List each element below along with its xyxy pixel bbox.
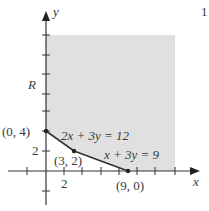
- line-label-x-3y-9: x + 3y = 9: [103, 147, 160, 162]
- x-axis-label: x: [192, 174, 199, 189]
- y-axis-arrow-icon: [42, 11, 50, 21]
- point-label-0-4: (0, 4): [2, 124, 30, 139]
- x-tick-label-2: 2: [61, 176, 68, 191]
- feasible-region-diagram: y x 1 R (0, 4) (3, 2) (9, 0) 2 2 2x + 3y…: [0, 0, 209, 211]
- vertex-0-4: [44, 129, 48, 133]
- page-mark: 1: [201, 4, 208, 19]
- point-label-9-0: (9, 0): [116, 178, 144, 193]
- y-axis-label: y: [51, 4, 59, 19]
- line-label-2x-3y-12: 2x + 3y = 12: [61, 128, 130, 143]
- point-label-3-2: (3, 2): [54, 153, 82, 168]
- y-tick-label-2: 2: [32, 143, 39, 158]
- region-label: R: [27, 77, 36, 92]
- vertex-9-0: [126, 169, 130, 173]
